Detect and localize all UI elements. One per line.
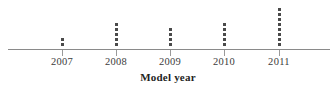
dot-stack-2007 bbox=[55, 38, 69, 48]
data-dot bbox=[278, 23, 281, 26]
data-dot bbox=[278, 38, 281, 41]
x-tick-label-2009: 2009 bbox=[147, 55, 193, 68]
data-dot bbox=[115, 43, 118, 46]
data-dot bbox=[61, 43, 64, 46]
data-dot bbox=[169, 28, 172, 31]
data-dot bbox=[223, 28, 226, 31]
data-dot bbox=[223, 33, 226, 36]
dot-stack-2010 bbox=[217, 23, 231, 48]
data-dot bbox=[278, 13, 281, 16]
data-dot bbox=[278, 33, 281, 36]
data-dot bbox=[115, 38, 118, 41]
x-tick-label-2010: 2010 bbox=[201, 55, 247, 68]
data-dot bbox=[115, 23, 118, 26]
data-dot bbox=[223, 23, 226, 26]
dot-stack-2011 bbox=[272, 8, 286, 48]
dot-stack-2008 bbox=[109, 23, 123, 48]
data-dot bbox=[115, 28, 118, 31]
x-tick-label-2011: 2011 bbox=[256, 55, 302, 68]
data-dot bbox=[223, 38, 226, 41]
data-dot bbox=[169, 43, 172, 46]
data-dot bbox=[278, 43, 281, 46]
data-dot bbox=[223, 43, 226, 46]
data-dot bbox=[61, 38, 64, 41]
x-tick-label-2007: 2007 bbox=[39, 55, 85, 68]
data-dot bbox=[278, 8, 281, 11]
dot-stack-2009 bbox=[163, 28, 177, 48]
data-dot bbox=[169, 33, 172, 36]
plot-area: 2007 2008 2009 2010 2011 Model year bbox=[0, 0, 336, 93]
data-dot bbox=[169, 38, 172, 41]
dotplot-figure: 2007 2008 2009 2010 2011 Model year bbox=[0, 0, 336, 93]
x-axis-line bbox=[8, 49, 330, 50]
data-dot bbox=[115, 33, 118, 36]
data-dot bbox=[278, 28, 281, 31]
data-dot bbox=[278, 18, 281, 21]
x-axis-title: Model year bbox=[0, 71, 336, 83]
x-tick-label-2008: 2008 bbox=[93, 55, 139, 68]
